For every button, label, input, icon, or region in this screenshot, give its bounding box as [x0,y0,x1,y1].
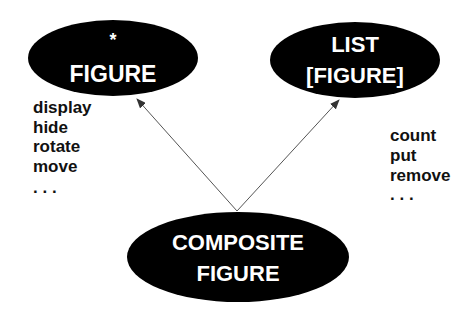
feature-count: count [390,126,437,145]
node-list-figure: LIST [FIGURE] [270,22,440,98]
node-figure: * FIGURE [28,20,198,96]
list-feature-list: count put remove . . . [390,126,450,204]
feature-rotate: rotate [33,137,80,156]
figure-feature-list: display hide rotate move . . . [33,98,92,197]
edge-composite-to-list [237,100,339,211]
node-list-label: LIST [331,32,379,57]
node-figure-label: FIGURE [70,61,157,87]
edge-composite-to-figure [137,99,237,211]
node-list-param-label: [FIGURE] [306,63,404,88]
feature-display: display [33,98,92,117]
feature-ellipsis: . . . [33,178,57,197]
node-figure-asterisk: * [109,30,116,50]
feature-hide: hide [33,118,68,137]
feature-put: put [390,146,417,165]
node-composite-figure: COMPOSITE FIGURE [127,212,349,302]
node-composite-label-line1: COMPOSITE [172,230,304,255]
feature-ellipsis: . . . [390,185,414,204]
feature-move: move [33,157,77,176]
inheritance-diagram: * FIGURE LIST [FIGURE] COMPOSITE FIGURE … [0,0,473,315]
feature-remove: remove [390,166,450,185]
node-composite-label-line2: FIGURE [196,261,279,286]
